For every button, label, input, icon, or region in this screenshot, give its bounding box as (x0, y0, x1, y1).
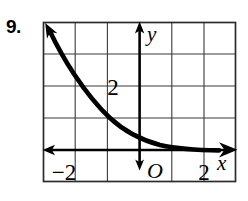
exercise-number: 9. (6, 17, 21, 36)
graph-figure: 9. (0, 0, 248, 201)
x-tick-label-2: 2 (198, 160, 210, 185)
coordinate-plane-graphic: y x O 2 −2 2 (0, 0, 248, 201)
y-axis-label: y (145, 22, 157, 46)
y-tick-label-2: 2 (107, 75, 119, 100)
x-tick-label-negative-2: −2 (52, 160, 76, 185)
x-axis-label: x (216, 151, 227, 175)
origin-label: O (147, 158, 163, 183)
